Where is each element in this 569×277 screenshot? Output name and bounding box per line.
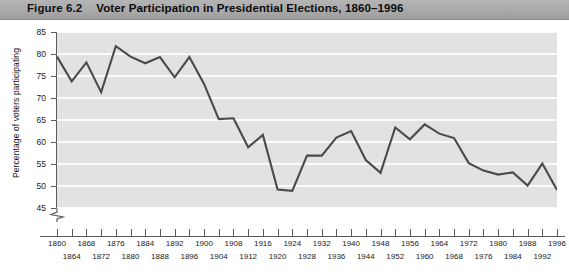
series-line-chart: [57, 32, 557, 208]
x-axis-tick: [131, 229, 132, 236]
x-axis-tick: [410, 229, 411, 236]
x-axis-tick: [469, 229, 470, 236]
y-axis-tick: [51, 186, 56, 187]
x-axis-tick: [233, 229, 234, 236]
x-axis-tick: [307, 229, 308, 236]
x-axis-tick: [336, 229, 337, 236]
y-axis-tick-label: 60: [0, 137, 46, 147]
figure-title-bar: Figure 6.2 Voter Participation in Presid…: [0, 0, 569, 20]
x-axis-tick: [395, 229, 396, 236]
plot-area: [57, 32, 557, 208]
x-axis-tick: [381, 229, 382, 236]
figure-title-inner: Figure 6.2 Voter Participation in Presid…: [27, 2, 403, 14]
x-axis-tick: [498, 229, 499, 236]
x-axis-tick: [528, 229, 529, 236]
x-axis-tick: [542, 229, 543, 236]
y-axis-tick-label: 45: [0, 203, 46, 213]
y-axis-tick-label: 80: [0, 49, 46, 59]
x-axis-tick: [439, 229, 440, 236]
y-axis-tick-label: 75: [0, 71, 46, 81]
x-axis-tick: [454, 229, 455, 236]
y-axis-tick: [51, 54, 56, 55]
x-axis-tick: [145, 229, 146, 236]
x-axis-tick: [483, 229, 484, 236]
x-axis-tick: [116, 229, 117, 236]
x-axis-tick: [278, 229, 279, 236]
axis-break-zigzag-icon: [49, 208, 65, 222]
y-axis-tick: [51, 164, 56, 165]
y-axis-tick: [51, 32, 56, 33]
x-axis-tick: [57, 229, 58, 236]
x-axis-tick: [351, 229, 352, 236]
x-axis-tick: [175, 229, 176, 236]
x-axis-tick: [219, 229, 220, 236]
y-axis-tick-label: 85: [0, 27, 46, 37]
x-axis-tick: [292, 229, 293, 236]
y-axis-tick: [51, 120, 56, 121]
x-axis-tick: [101, 229, 102, 236]
figure-number: Figure 6.2: [27, 2, 82, 14]
x-axis-tick: [366, 229, 367, 236]
figure-container: Figure 6.2 Voter Participation in Presid…: [0, 0, 569, 277]
y-axis-title: Percentage of voters participating: [11, 13, 21, 213]
x-axis-tick: [86, 229, 87, 236]
x-axis-tick: [263, 229, 264, 236]
x-axis-tick-label: 1992: [522, 252, 562, 261]
y-axis-tick-label: 70: [0, 93, 46, 103]
x-axis-tick: [72, 229, 73, 236]
x-axis-tick: [189, 229, 190, 236]
x-axis-tick: [248, 229, 249, 236]
x-axis-line: [40, 236, 565, 237]
y-axis-tick: [51, 98, 56, 99]
x-axis-tick: [322, 229, 323, 236]
x-axis-tick-label: 1996: [537, 239, 569, 248]
x-axis-tick: [513, 229, 514, 236]
y-axis-tick-label: 65: [0, 115, 46, 125]
y-axis-tick-label: 50: [0, 181, 46, 191]
x-axis-tick: [204, 229, 205, 236]
voter-turnout-line: [57, 46, 557, 191]
figure-title: Voter Participation in Presidential Elec…: [96, 2, 403, 14]
y-axis-tick: [51, 142, 56, 143]
x-axis-tick: [557, 229, 558, 236]
y-axis-line: [56, 32, 57, 208]
y-axis-tick: [51, 76, 56, 77]
x-axis-tick: [160, 229, 161, 236]
y-axis-tick-label: 55: [0, 159, 46, 169]
x-axis-tick: [425, 229, 426, 236]
y-axis-tick: [51, 208, 56, 209]
